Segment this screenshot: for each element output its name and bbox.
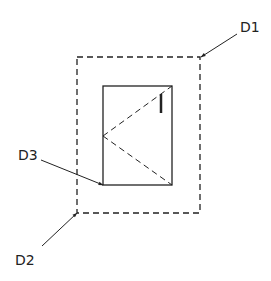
leader-d1 (201, 34, 237, 57)
label-d2: D2 (15, 252, 35, 268)
leader-d2 (42, 213, 77, 246)
leader-d3 (41, 160, 103, 185)
door-diagram: D1 D2 D3 (0, 0, 271, 281)
label-d3: D3 (18, 147, 38, 163)
hinge-line-bottom (103, 136, 172, 185)
outer-dashed-frame (77, 57, 200, 213)
label-d1: D1 (240, 19, 260, 35)
